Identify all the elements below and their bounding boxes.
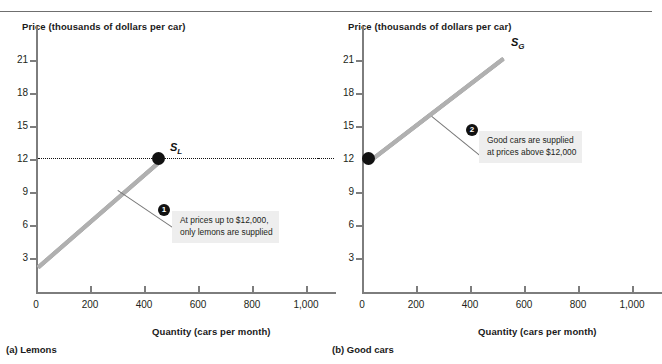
y-tick-15 [356,126,364,128]
panel-good-cars: Price (thousands of dollars per car) 21 … [326,0,652,364]
x-axis-line [36,292,336,294]
x-tick-label-0: 0 [14,299,58,310]
callout-2-box: Good cars are supplied at prices above $… [479,131,582,163]
x-tick-label-200: 200 [68,299,112,310]
price-reference-line-12-tail [318,158,334,159]
y-tick-label-18: 18 [328,87,354,98]
x-tick-600 [198,286,200,294]
y-tick-21 [356,60,364,62]
callout-1-line-1: At prices up to $12,000, [180,215,273,227]
x-tick-200 [416,286,418,294]
y-tick-label-6: 6 [328,219,354,230]
y-tick-label-12: 12 [2,153,28,164]
x-tick-label-600: 600 [176,299,220,310]
y-tick-6 [356,225,364,227]
callout-1-line-2: only lemons are supplied [180,227,273,239]
curve-label-sg: SG [511,36,525,51]
x-tick-1000 [306,286,308,294]
y-tick-label-6: 6 [2,219,28,230]
x-tick-800 [252,286,254,294]
panel-caption-b: (b) Good cars [332,344,394,355]
callout-2-line-1: Good cars are supplied [487,135,576,147]
x-tick-label-0: 0 [340,299,384,310]
x-tick-label-200: 200 [394,299,438,310]
y-tick-18 [356,93,364,95]
y-tick-3 [30,258,38,260]
x-tick-label-1000: 1,000 [284,299,328,310]
curve-label-sg-sub: G [518,42,524,51]
price-reference-line-12 [38,158,326,159]
x-tick-800 [578,286,580,294]
y-tick-label-21: 21 [328,54,354,65]
x-tick-label-1000: 1,000 [610,299,654,310]
x-tick-400 [144,286,146,294]
x-tick-label-600: 600 [502,299,546,310]
supply-start-marker-good-cars [362,152,375,165]
y-tick-15 [30,126,38,128]
x-axis-title: Quantity (cars per month) [478,326,597,337]
y-tick-label-15: 15 [328,120,354,131]
supply-curve-lemons [36,158,163,269]
y-tick-label-9: 9 [2,186,28,197]
y-tick-18 [30,93,38,95]
x-tick-label-400: 400 [122,299,166,310]
x-axis-line [362,292,662,294]
y-tick-label-9: 9 [328,186,354,197]
callout-2-badge: 2 [466,124,478,136]
x-tick-400 [470,286,472,294]
y-tick-9 [30,192,38,194]
y-tick-label-15: 15 [2,120,28,131]
callout-2-line-2: at prices above $12,000 [487,147,576,159]
x-tick-1000 [632,286,634,294]
x-tick-label-800: 800 [556,299,600,310]
callout-1-box: At prices up to $12,000, only lemons are… [172,211,279,243]
curve-label-sl-sub: L [177,147,182,156]
y-tick-9 [356,192,364,194]
x-tick-600 [524,286,526,294]
y-tick-label-21: 21 [2,54,28,65]
panel-lemons: Price (thousands of dollars per car) 21 … [0,0,326,364]
y-tick-21 [30,60,38,62]
y-tick-label-3: 3 [328,252,354,263]
y-tick-6 [30,225,38,227]
y-tick-3 [356,258,364,260]
y-tick-label-3: 3 [2,252,28,263]
y-axis-title: Price (thousands of dollars per car) [348,21,512,32]
panel-caption-a: (a) Lemons [6,344,57,355]
y-tick-label-18: 18 [2,87,28,98]
y-axis-title: Price (thousands of dollars per car) [22,21,186,32]
x-tick-label-800: 800 [230,299,274,310]
callout-1-badge: 1 [158,204,170,216]
x-axis-title: Quantity (cars per month) [152,326,271,337]
y-tick-12 [30,159,38,161]
callout-2-leader [431,116,484,159]
curve-label-sl: SL [170,141,182,156]
x-tick-label-400: 400 [448,299,492,310]
x-tick-200 [90,286,92,294]
